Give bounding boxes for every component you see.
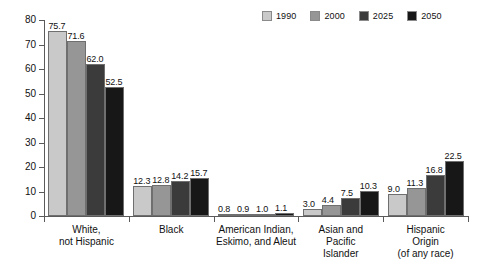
bar[interactable]: 75.7 (48, 31, 67, 216)
bar-value-label: 71.6 (67, 32, 84, 41)
y-axis-tick: 10 (39, 192, 44, 193)
bar-value-label: 3.0 (303, 200, 315, 209)
category-label: Hispanic Origin (of any race) (373, 224, 478, 260)
bar[interactable]: 11.3 (407, 188, 426, 216)
y-axis-tick: 30 (39, 143, 44, 144)
bar-group: 9.011.316.822.5 (388, 20, 464, 216)
bar-value-label: 62.0 (86, 55, 103, 64)
bar-value-label: 52.5 (105, 78, 122, 87)
x-axis-tick (44, 216, 45, 222)
bar[interactable]: 62.0 (86, 64, 105, 216)
y-axis-line (44, 20, 45, 216)
bar-value-label: 0.9 (237, 205, 249, 214)
x-axis-tick (298, 216, 299, 222)
bar-group: 75.771.662.052.5 (48, 20, 124, 216)
y-axis-tick: 50 (39, 94, 44, 95)
y-axis-tick-label: 70 (25, 39, 36, 50)
bar-value-label: 16.8 (426, 166, 443, 175)
y-axis-tick: 60 (39, 69, 44, 70)
x-axis-tick (129, 216, 130, 222)
bar-value-label: 7.5 (341, 189, 353, 198)
bar[interactable]: 22.5 (445, 161, 464, 216)
bar[interactable]: 3.0 (303, 209, 322, 216)
bar[interactable]: 1.0 (256, 214, 275, 216)
bar[interactable]: 12.3 (133, 186, 152, 216)
y-axis-tick-label: 20 (25, 161, 36, 172)
y-axis-tick: 40 (39, 118, 44, 119)
bar-value-label: 10.3 (360, 182, 377, 191)
y-axis-tick: 80 (39, 20, 44, 21)
bar-value-label: 0.8 (218, 205, 230, 214)
bar[interactable]: 15.7 (190, 178, 209, 216)
y-axis-tick-label: 80 (25, 14, 36, 25)
bar[interactable]: 4.4 (322, 205, 341, 216)
x-axis-line (44, 216, 468, 217)
bar[interactable]: 1.1 (275, 213, 294, 216)
bar-group: 3.04.47.510.3 (303, 20, 379, 216)
bar-value-label: 1.0 (256, 205, 268, 214)
y-axis-tick: 70 (39, 45, 44, 46)
y-axis-tick-label: 0 (30, 210, 36, 221)
bar[interactable]: 14.2 (171, 181, 190, 216)
y-axis-tick-label: 30 (25, 137, 36, 148)
bar-value-label: 22.5 (445, 152, 462, 161)
x-axis-tick (214, 216, 215, 222)
bar-value-label: 75.7 (48, 22, 65, 31)
bar[interactable]: 10.3 (360, 191, 379, 216)
bar-group: 0.80.91.01.1 (218, 20, 294, 216)
bar[interactable]: 0.9 (237, 214, 256, 216)
bar-chart: 1990200020252050 01020304050607080 75.77… (0, 0, 490, 272)
bar-value-label: 12.3 (133, 177, 150, 186)
x-axis-tick (468, 216, 469, 222)
bar-value-label: 4.4 (322, 196, 334, 205)
bar[interactable]: 16.8 (426, 175, 445, 216)
bar-group: 12.312.814.215.7 (133, 20, 209, 216)
y-axis-tick: 20 (39, 167, 44, 168)
bar-value-label: 9.0 (388, 185, 400, 194)
bar-value-label: 14.2 (171, 172, 188, 181)
plot-area: 01020304050607080 75.771.662.052.512.312… (44, 20, 468, 216)
bar[interactable]: 9.0 (388, 194, 407, 216)
bar[interactable]: 12.8 (152, 185, 171, 216)
y-axis-tick-label: 50 (25, 88, 36, 99)
y-axis-tick-label: 10 (25, 186, 36, 197)
bar-value-label: 15.7 (190, 169, 207, 178)
x-axis-tick (383, 216, 384, 222)
y-axis-tick-label: 40 (25, 112, 36, 123)
bar-value-label: 12.8 (152, 176, 169, 185)
bar[interactable]: 7.5 (341, 198, 360, 216)
bar-value-label: 1.1 (275, 204, 287, 213)
y-axis-tick-label: 60 (25, 63, 36, 74)
bar[interactable]: 0.8 (218, 214, 237, 216)
bar-value-label: 11.3 (407, 179, 423, 188)
bar[interactable]: 52.5 (105, 87, 124, 216)
bar[interactable]: 71.6 (67, 41, 86, 216)
